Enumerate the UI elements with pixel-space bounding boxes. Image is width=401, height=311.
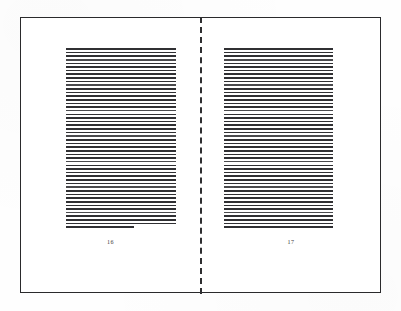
text-line (224, 84, 333, 86)
text-line (224, 201, 333, 203)
text-line (66, 183, 176, 185)
text-line (224, 55, 333, 57)
text-line (66, 63, 176, 65)
text-line (224, 132, 333, 134)
text-line (224, 117, 333, 119)
text-line (66, 135, 176, 137)
text-line (66, 84, 176, 86)
text-line (224, 223, 333, 225)
text-line (66, 95, 176, 97)
text-line (66, 168, 176, 170)
text-line (224, 154, 333, 156)
text-line (66, 212, 176, 214)
text-line (66, 66, 176, 68)
text-line (66, 110, 176, 112)
page-number-recto: 17 (201, 239, 381, 245)
text-line (224, 165, 333, 167)
text-line (66, 52, 176, 54)
binding-line (200, 17, 202, 294)
text-line (66, 128, 176, 130)
text-line (66, 143, 176, 145)
text-line (224, 212, 333, 214)
text-line (224, 124, 333, 126)
text-line (66, 106, 176, 108)
text-line (224, 205, 333, 207)
text-line (224, 92, 333, 94)
text-line (224, 172, 333, 174)
text-line (224, 70, 333, 72)
text-line (224, 81, 333, 83)
text-block-recto (224, 48, 333, 230)
text-line (66, 186, 176, 188)
text-line (224, 219, 333, 221)
text-line (66, 121, 176, 123)
text-line (66, 197, 176, 199)
text-line (224, 146, 333, 148)
text-line (224, 179, 333, 181)
scanned-book-image: 16 17 (0, 0, 401, 311)
text-line (66, 146, 176, 148)
text-line (66, 114, 176, 116)
text-line (224, 106, 333, 108)
text-line (66, 165, 176, 167)
text-line (224, 139, 333, 141)
text-line (224, 190, 333, 192)
text-line (66, 124, 176, 126)
text-line (224, 73, 333, 75)
text-line (224, 95, 333, 97)
text-line (66, 117, 176, 119)
text-line (66, 175, 176, 177)
text-line (66, 139, 176, 141)
text-line (66, 70, 176, 72)
text-line (66, 55, 176, 57)
text-line (66, 73, 176, 75)
text-line (224, 66, 333, 68)
page-verso: 16 (21, 17, 200, 293)
text-line (66, 215, 176, 217)
text-line (224, 63, 333, 65)
text-line (224, 208, 333, 210)
text-line (66, 48, 176, 50)
text-block-verso (66, 48, 176, 230)
text-line (224, 110, 333, 112)
text-line (224, 168, 333, 170)
text-line (66, 77, 176, 79)
text-line (66, 205, 176, 207)
page-number-verso: 16 (21, 239, 200, 245)
text-line (66, 150, 176, 152)
text-line (224, 128, 333, 130)
text-line (66, 132, 176, 134)
text-line (224, 135, 333, 137)
text-line (66, 99, 176, 101)
text-line (66, 194, 176, 196)
text-line (224, 215, 333, 217)
text-line (66, 179, 176, 181)
text-line (66, 201, 176, 203)
text-line (224, 186, 333, 188)
text-line (224, 114, 333, 116)
text-line (224, 103, 333, 105)
text-line (224, 161, 333, 163)
text-line (224, 143, 333, 145)
text-line (66, 161, 176, 163)
text-line (224, 99, 333, 101)
text-line (224, 88, 333, 90)
text-line (66, 219, 176, 221)
text-line (66, 103, 176, 105)
text-line (224, 194, 333, 196)
text-line (224, 197, 333, 199)
text-line (66, 190, 176, 192)
text-line (224, 157, 333, 159)
text-line (66, 226, 134, 228)
text-line (66, 154, 176, 156)
text-line (224, 175, 333, 177)
text-line (224, 48, 333, 50)
text-line (224, 150, 333, 152)
text-line (224, 52, 333, 54)
text-line (224, 59, 333, 61)
text-line (66, 172, 176, 174)
text-line (224, 226, 333, 228)
text-line (66, 88, 176, 90)
text-line (66, 157, 176, 159)
text-line (66, 81, 176, 83)
